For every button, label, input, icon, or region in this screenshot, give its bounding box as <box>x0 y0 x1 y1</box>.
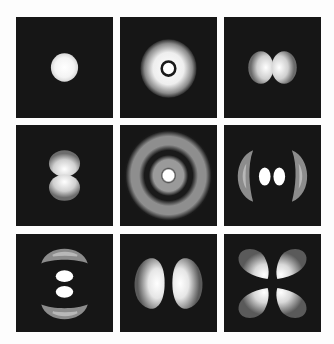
p-orbital-horizontal-icon <box>224 17 321 118</box>
sphere-node-orbital-icon <box>120 17 217 118</box>
panel-two-lobes-vertical <box>16 125 113 226</box>
panel-four-lobe-clover <box>224 234 321 332</box>
s-orbital-rings-icon <box>120 125 217 226</box>
panel-concentric-rings <box>120 125 217 226</box>
large-p-orbital-icon <box>120 234 217 332</box>
3p-orbital-horizontal-icon <box>224 125 321 226</box>
d-orbital-clover-icon <box>224 234 321 332</box>
panel-sphere-with-node <box>120 17 217 118</box>
p-orbital-vertical-icon <box>16 125 113 226</box>
panel-lobes-with-arcs-vertical <box>16 234 113 332</box>
panel-single-sphere <box>16 17 113 118</box>
panel-two-large-lobes <box>120 234 217 332</box>
sphere-orbital-icon <box>16 17 113 118</box>
3p-orbital-vertical-icon <box>16 234 113 332</box>
panel-lobes-with-arcs-horizontal <box>224 125 321 226</box>
panel-two-lobes-horizontal <box>224 17 321 118</box>
